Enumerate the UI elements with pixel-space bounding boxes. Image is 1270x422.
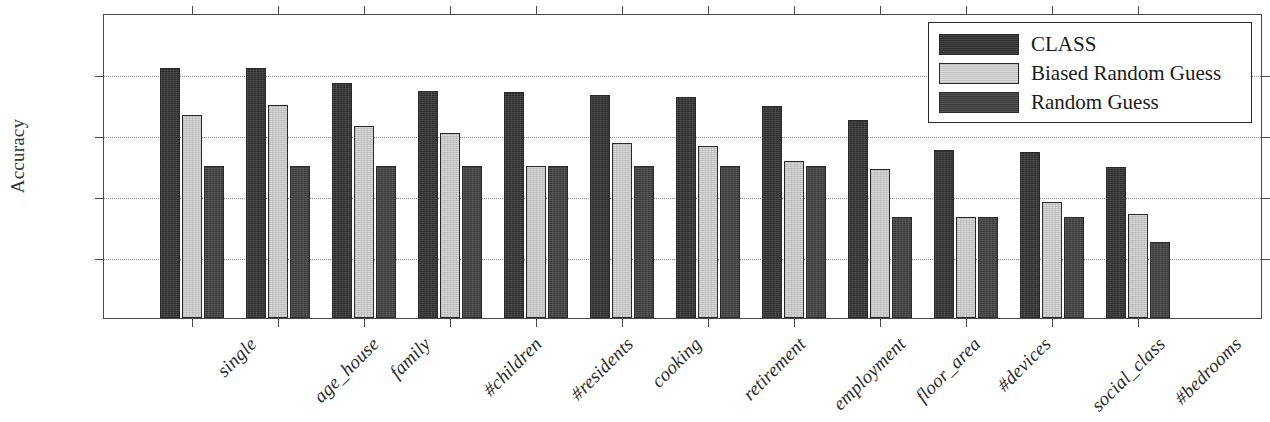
x-axis-label-residents: #residents: [566, 333, 638, 405]
bar: [332, 83, 352, 318]
bar: [806, 166, 826, 319]
bar-group: [590, 13, 654, 318]
bar: [934, 150, 954, 318]
bar: [1020, 152, 1040, 318]
x-axis-label-children: #children: [479, 333, 547, 401]
x-tick-bottom: [966, 318, 967, 327]
bar-group: [504, 13, 568, 318]
x-axis-label-retirement: retirement: [738, 333, 810, 405]
legend-label: Biased Random Guess: [1031, 61, 1221, 86]
bar: [978, 217, 998, 318]
bar: [504, 92, 524, 318]
legend-swatch-icon: [939, 92, 1019, 113]
x-tick-bottom: [794, 318, 795, 327]
bar: [612, 143, 632, 318]
y-axis-label: Accuracy: [7, 86, 29, 226]
y-tick-right: [1261, 137, 1270, 138]
x-axis-label-employment: employment: [828, 333, 910, 415]
chart-legend: CLASSBiased Random GuessRandom Guess: [928, 22, 1252, 123]
y-tick: [95, 198, 104, 199]
bar: [1064, 217, 1084, 318]
x-axis-label-bedrooms: #bedrooms: [1170, 333, 1246, 409]
bar: [354, 126, 374, 318]
x-tick-bottom: [450, 318, 451, 327]
legend-swatch-icon: [939, 63, 1019, 84]
bar: [720, 166, 740, 319]
bar: [1150, 242, 1170, 318]
x-tick-top: [192, 6, 193, 15]
x-tick-bottom: [278, 318, 279, 327]
y-tick-right: [1261, 259, 1270, 260]
x-tick-top: [966, 6, 967, 15]
x-tick-top: [708, 6, 709, 15]
bar: [1128, 214, 1148, 318]
bar: [634, 166, 654, 319]
bar: [590, 95, 610, 318]
x-tick-top: [536, 6, 537, 15]
x-axis-label-age_house: age_house: [309, 333, 383, 407]
x-tick-top: [1052, 6, 1053, 15]
legend-label: Random Guess: [1031, 90, 1159, 115]
x-tick-bottom: [192, 318, 193, 327]
bar: [548, 166, 568, 319]
bar: [698, 146, 718, 318]
bar: [418, 91, 438, 318]
bar-group: [332, 13, 396, 318]
bar: [784, 161, 804, 318]
bar: [440, 133, 460, 318]
x-tick-top: [622, 6, 623, 15]
legend-item: CLASS: [939, 30, 1251, 59]
bar: [246, 68, 266, 318]
x-tick-bottom: [536, 318, 537, 327]
bar: [376, 166, 396, 319]
bar-group: [762, 13, 826, 318]
y-tick: [95, 259, 104, 260]
bar: [1042, 202, 1062, 318]
bar: [1106, 167, 1126, 318]
bar-group: [676, 13, 740, 318]
bar: [870, 169, 890, 318]
x-axis-label-devices: #devices: [993, 333, 1056, 396]
x-tick-top: [364, 6, 365, 15]
bar: [204, 166, 224, 319]
bar: [676, 97, 696, 318]
x-tick-bottom: [622, 318, 623, 327]
x-tick-top: [1138, 6, 1139, 15]
x-tick-top: [880, 6, 881, 15]
bar: [762, 106, 782, 318]
x-axis-label-social_class: social_class: [1087, 333, 1170, 416]
x-tick-top: [278, 6, 279, 15]
y-tick: [95, 137, 104, 138]
x-tick-bottom: [1052, 318, 1053, 327]
x-axis-label-family: family: [385, 333, 435, 383]
bar: [290, 166, 310, 319]
x-axis-label-single: single: [213, 333, 262, 382]
y-tick: [95, 76, 104, 77]
x-tick-top: [450, 6, 451, 15]
legend-item: Random Guess: [939, 88, 1251, 117]
bar: [160, 68, 180, 318]
bar-group: [848, 13, 912, 318]
y-tick-right: [1261, 76, 1270, 77]
x-tick-bottom: [364, 318, 365, 327]
bar-group: [418, 13, 482, 318]
bar-group: [160, 13, 224, 318]
legend-label: CLASS: [1031, 32, 1096, 57]
x-tick-bottom: [880, 318, 881, 327]
bar: [268, 105, 288, 319]
x-axis-label-floor_area: floor_area: [911, 333, 985, 407]
bar: [892, 217, 912, 318]
bar: [526, 166, 546, 319]
x-tick-bottom: [708, 318, 709, 327]
bar: [462, 166, 482, 319]
x-tick-bottom: [1138, 318, 1139, 327]
legend-swatch-icon: [939, 34, 1019, 55]
y-tick-right: [1261, 198, 1270, 199]
bar: [182, 115, 202, 318]
bar: [848, 120, 868, 318]
bar: [956, 217, 976, 318]
x-tick-top: [794, 6, 795, 15]
bar-group: [246, 13, 310, 318]
x-axis-label-cooking: cooking: [647, 333, 706, 392]
